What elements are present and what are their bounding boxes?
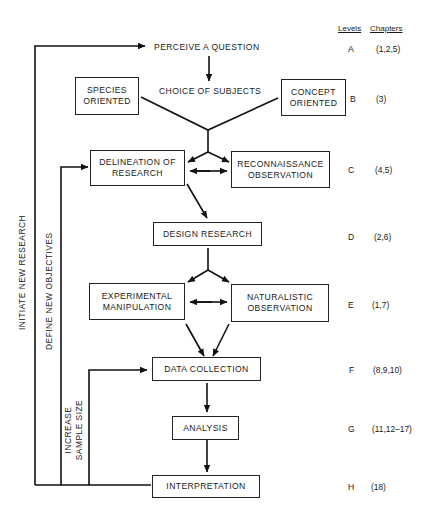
node-design-research: DESIGN RESEARCH — [153, 222, 262, 246]
level-g: G — [348, 424, 355, 434]
levels-header: Levels — [338, 24, 361, 33]
chapters-a: (1,2,5) — [376, 44, 400, 54]
chapters-h: (18) — [371, 482, 386, 492]
node-naturalistic-observation: NATURALISTIC OBSERVATION — [231, 284, 329, 322]
node-data-collection: DATA COLLECTION — [152, 357, 261, 381]
level-d: D — [348, 232, 354, 242]
level-c: C — [348, 165, 354, 175]
level-h: H — [348, 482, 354, 492]
feedback-define-new-objectives: DEFINE NEW OBJECTIVES — [44, 232, 55, 350]
feedback-increase-sample-size: INCREASE SAMPLE SIZE — [63, 398, 85, 462]
feedback-initiate-new-research: INITIATE NEW RESEARCH — [17, 215, 28, 330]
chapters-f: (8,9,10) — [373, 365, 402, 375]
node-delineation-of-research: DELINEATION OF RESEARCH — [90, 150, 185, 186]
chapters-g: (11,12–17) — [372, 424, 412, 434]
level-f: F — [349, 365, 354, 375]
node-concept-oriented: CONCEPT ORIENTED — [281, 79, 346, 116]
node-species-oriented: SPECIES ORIENTED — [75, 77, 139, 115]
chapters-b: (3) — [376, 94, 386, 104]
chapters-header: Chapters — [370, 24, 402, 33]
level-b: B — [350, 94, 356, 104]
level-a: A — [348, 44, 354, 54]
chapters-e: (1,7) — [372, 300, 389, 310]
chapters-c: (4,5) — [375, 165, 392, 175]
node-choice-of-subjects: CHOICE OF SUBJECTS — [159, 86, 261, 96]
chapters-d: (2,6) — [374, 232, 391, 242]
node-reconnaissance-observation: RECONNAISSANCE OBSERVATION — [231, 151, 330, 188]
node-analysis: ANALYSIS — [172, 416, 239, 440]
node-interpretation: INTERPRETATION — [152, 475, 260, 498]
level-e: E — [348, 300, 354, 310]
node-experimental-manipulation: EXPERIMENTAL MANIPULATION — [89, 283, 185, 320]
node-perceive-question: PERCEIVE A QUESTION — [154, 42, 260, 52]
